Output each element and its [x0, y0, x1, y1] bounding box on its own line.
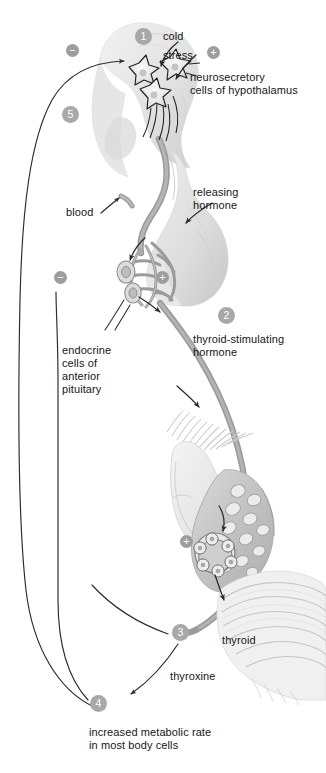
label-releasing-hormone-line2: hormone	[193, 199, 237, 212]
step-badge-2[interactable]: 2	[218, 307, 235, 324]
arrow-blood	[101, 198, 119, 213]
step-badge-3-label: 3	[178, 627, 184, 638]
sign-plus-pituitary-label: +	[159, 272, 165, 283]
label-releasing-hormone-line1: releasing	[193, 186, 239, 199]
label-blood: blood	[66, 206, 93, 219]
sign-plus-thyroid-label: +	[183, 536, 189, 547]
label-stress: stress	[163, 49, 193, 62]
link-step3-to-loop	[92, 585, 168, 634]
label-neurosecretory-line1: neurosecretory	[190, 71, 265, 84]
step-badge-4-label: 4	[96, 698, 102, 709]
sign-minus-pituitary-label: −	[57, 272, 63, 283]
step-badge-3[interactable]: 3	[172, 624, 189, 641]
sign-plus-stress-label: +	[210, 47, 216, 58]
label-neurosecretory-line2: cells of hypothalamus	[190, 84, 298, 97]
label-tsh-line2: hormone	[193, 346, 237, 359]
sign-badge-minus-pituitary[interactable]: −	[54, 271, 67, 284]
sign-badge-plus-pituitary[interactable]: +	[156, 271, 169, 284]
label-tsh-line1: thyroid-stimulating	[193, 333, 284, 346]
sign-minus-hypothalamus-label: −	[69, 45, 75, 56]
sign-badge-minus-hypothalamus[interactable]: −	[66, 44, 79, 57]
hypothalamus-anatomy	[92, 23, 198, 177]
label-cold: cold	[163, 30, 184, 43]
step-badge-5-label: 5	[68, 109, 74, 120]
arrow-tsh-to-thyroid	[177, 386, 199, 407]
leader-endocrine-lower	[115, 305, 130, 330]
leader-endocrine-upper	[105, 300, 124, 330]
step-badge-4[interactable]: 4	[90, 695, 107, 712]
label-endocrine-line2: cells of	[62, 357, 97, 370]
thyroid-anatomy	[167, 411, 326, 705]
label-thyroxine: thyroxine	[170, 670, 216, 683]
step-badge-2-label: 2	[224, 310, 230, 321]
step-badge-5[interactable]: 5	[62, 106, 79, 123]
label-endocrine-line4: pituitary	[62, 383, 101, 396]
step-badge-1[interactable]: 1	[135, 28, 152, 45]
label-metabolic-line2: in most body cells	[89, 739, 178, 752]
step-badge-1-label: 1	[141, 31, 147, 42]
label-endocrine-line3: anterior	[62, 370, 100, 383]
arrow-thyroxine-to-cells	[131, 644, 178, 694]
diagram-canvas: 1 2 3 4 5 − + − + + cold stress neurosec…	[0, 0, 326, 773]
sign-badge-plus-thyroid[interactable]: +	[180, 535, 193, 548]
label-endocrine-line1: endocrine	[62, 344, 111, 357]
anterior-pituitary-endocrine-cells	[117, 261, 141, 303]
label-thyroid: thyroid	[222, 634, 256, 647]
sign-badge-plus-stress[interactable]: +	[207, 46, 220, 59]
label-metabolic-line1: increased metabolic rate	[89, 726, 211, 739]
endocrine-feedback-illustration	[0, 0, 326, 773]
